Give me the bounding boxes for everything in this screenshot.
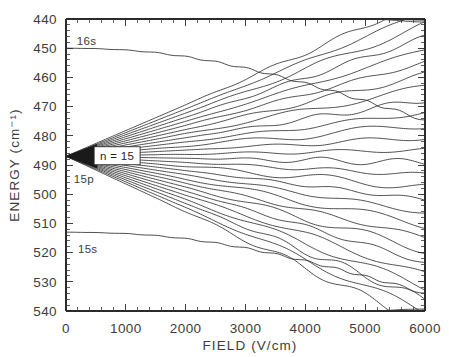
state-label-15s: 15s <box>78 243 97 255</box>
y-axis-title: ENERGY (cm⁻¹) <box>7 108 22 221</box>
x-axis-tick-labels: 0100020003000400050006000 <box>62 321 441 336</box>
x-tick-label: 4000 <box>290 321 322 336</box>
state-curve-16s <box>66 48 425 120</box>
y-tick-label: 520 <box>33 245 57 260</box>
x-tick-label: 3000 <box>230 321 262 336</box>
state-label-16s: 16s <box>77 35 96 47</box>
energy-level-curve <box>66 156 425 272</box>
state-label-15p: 15p <box>74 173 94 185</box>
y-tick-label: 500 <box>33 187 57 202</box>
y-tick-label: 540 <box>33 304 57 319</box>
energy-level-curve <box>66 22 425 157</box>
y-tick-label: 510 <box>33 216 57 231</box>
y-tick-label: 490 <box>33 158 57 173</box>
chart-annotations: n = 1516s15p15s <box>74 35 140 254</box>
x-tick-label: 1000 <box>110 321 142 336</box>
x-axis-title: FIELD (V/cm) <box>203 338 298 353</box>
energy-level-curve <box>66 156 425 253</box>
y-tick-label: 470 <box>33 99 57 114</box>
y-tick-label: 440 <box>33 12 57 27</box>
y-tick-label: 530 <box>33 275 57 290</box>
x-tick-label: 5000 <box>349 321 381 336</box>
manifold-label: n = 15 <box>100 150 134 162</box>
energy-level-curve <box>66 72 425 156</box>
energy-level-curve <box>66 156 425 228</box>
energy-level-curve <box>66 156 425 237</box>
y-tick-label: 480 <box>33 129 57 144</box>
energy-level-curve <box>66 156 425 290</box>
named-state-curves <box>66 48 425 293</box>
energy-level-curve <box>66 50 425 156</box>
x-tick-label: 6000 <box>409 321 441 336</box>
y-tick-label: 460 <box>33 70 57 85</box>
energy-level-curve <box>66 85 425 156</box>
y-axis-tick-labels: 440450460470480490500510520530540 <box>33 12 57 319</box>
x-tick-label: 2000 <box>170 321 202 336</box>
y-tick-label: 450 <box>33 41 57 56</box>
manifold-label-group: n = 15 <box>94 147 140 165</box>
stark-energy-level-chart: 0100020003000400050006000 44045046047048… <box>0 0 449 357</box>
state-curve-15s <box>66 232 425 293</box>
x-tick-label: 0 <box>62 321 70 336</box>
energy-level-curve <box>66 20 425 157</box>
energy-level-curve <box>66 20 425 157</box>
